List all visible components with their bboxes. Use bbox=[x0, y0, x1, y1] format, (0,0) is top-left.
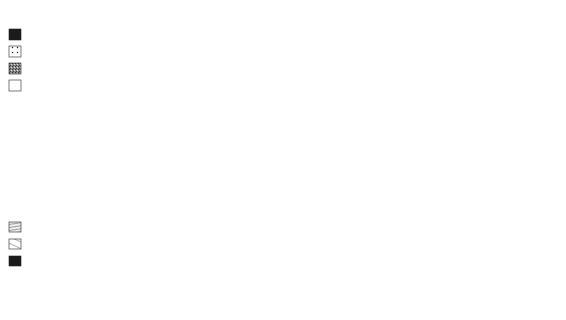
legend-swatch-insects bbox=[9, 29, 21, 40]
legend-swatch-leaping bbox=[9, 256, 21, 266]
legend-swatch-suspensory bbox=[9, 222, 21, 232]
legend-swatch-leaves bbox=[9, 63, 21, 74]
legend-swatch-fruit bbox=[9, 46, 21, 57]
legend-swatch-quadrupedal bbox=[9, 239, 21, 249]
locomotion-legend bbox=[9, 222, 21, 266]
figure bbox=[0, 0, 566, 320]
diet-legend bbox=[9, 29, 21, 91]
legend-swatch-other bbox=[9, 80, 21, 91]
